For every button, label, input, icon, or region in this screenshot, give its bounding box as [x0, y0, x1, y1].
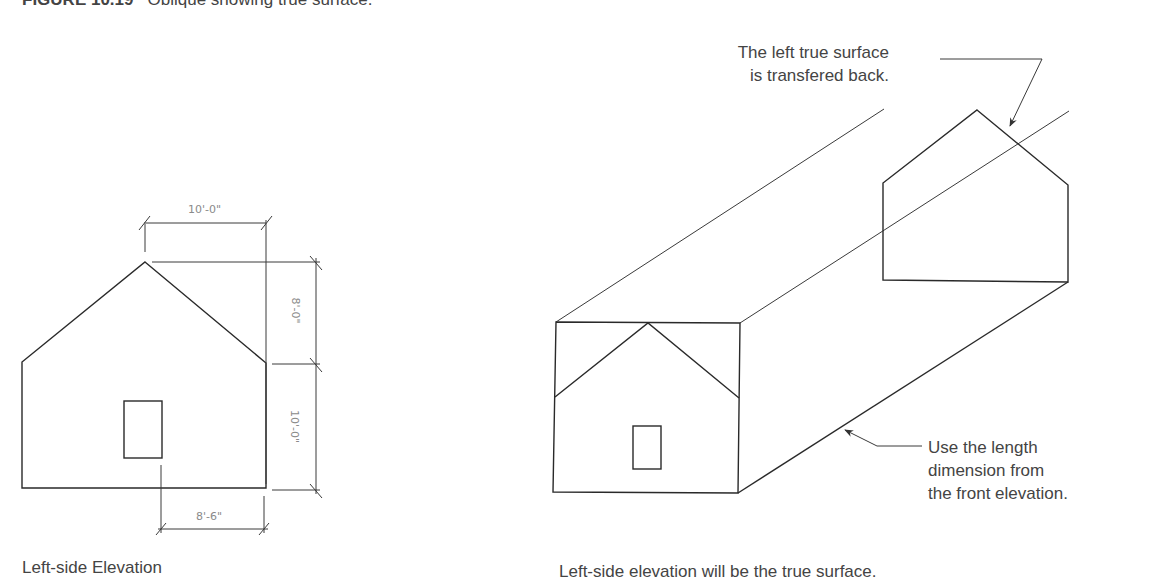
door — [124, 401, 162, 458]
callout-bottom-leader — [845, 430, 922, 446]
dimension-right — [152, 256, 322, 498]
house-outline — [22, 262, 266, 488]
dim-label-top: 10'-0" — [188, 203, 221, 216]
callout-top: The left true surface is transfered back… — [735, 41, 889, 87]
back-true-surface — [883, 110, 1068, 282]
receding-line-top-right — [740, 111, 1069, 323]
callout-bottom-line1: Use the length — [928, 436, 1068, 459]
oblique-label: Left-side elevation will be the true sur… — [559, 563, 877, 580]
left-elevation-label: Left-side Elevation — [22, 559, 162, 576]
callout-top-leader — [940, 59, 1042, 126]
dimension-bottom — [156, 465, 269, 535]
callout-top-line2: is transfered back. — [735, 64, 889, 87]
callout-bottom-line3: the front elevation. — [928, 482, 1068, 505]
callout-bottom: Use the length dimension from the front … — [928, 436, 1068, 505]
front-box — [553, 322, 740, 493]
left-elevation — [22, 216, 322, 535]
dimension-top — [139, 216, 272, 484]
callout-top-line1: The left true surface — [735, 41, 889, 64]
front-roof — [555, 323, 739, 398]
dim-label-door-offset: 8'-6" — [196, 510, 222, 523]
oblique-drawing — [553, 59, 1069, 493]
callout-bottom-line2: dimension from — [928, 459, 1068, 482]
dim-label-roof-height: 8'-0" — [289, 297, 302, 323]
dim-label-wall-height: 10'-0" — [288, 410, 301, 443]
front-door — [633, 426, 661, 469]
receding-line-top-left — [556, 109, 884, 322]
